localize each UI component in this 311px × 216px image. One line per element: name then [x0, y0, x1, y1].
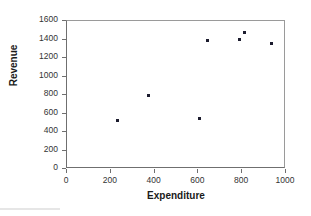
x-tick-mark	[110, 169, 111, 173]
y-axis-title: Revenue	[8, 31, 19, 101]
y-tick-label: 1200	[24, 51, 58, 61]
scatter-chart-figure: Revenue Expenditure 02004006008001000120…	[0, 0, 311, 216]
x-tick-mark	[66, 169, 67, 173]
x-tick-mark	[197, 169, 198, 173]
y-tick-label: 800	[24, 88, 58, 98]
x-tick-label: 800	[224, 175, 258, 185]
x-tick-mark	[285, 169, 286, 173]
y-tick-label: 400	[24, 125, 58, 135]
data-point	[198, 117, 201, 120]
x-tick-label: 0	[49, 175, 83, 185]
y-tick-label: 1000	[24, 70, 58, 80]
x-tick-label: 600	[180, 175, 214, 185]
y-tick-mark	[62, 20, 66, 21]
x-axis-title: Expenditure	[66, 190, 286, 201]
x-tick-label: 1000	[268, 175, 302, 185]
y-tick-mark	[62, 150, 66, 151]
y-tick-label: 600	[24, 107, 58, 117]
x-tick-mark	[241, 169, 242, 173]
plot-area	[66, 20, 285, 168]
data-point	[147, 94, 150, 97]
data-point	[243, 31, 246, 34]
y-tick-label: 0	[24, 162, 58, 172]
y-tick-mark	[62, 131, 66, 132]
x-tick-label: 200	[93, 175, 127, 185]
data-point	[238, 38, 241, 41]
y-tick-label: 1400	[24, 33, 58, 43]
y-tick-mark	[62, 57, 66, 58]
data-point	[206, 39, 209, 42]
y-tick-mark	[62, 76, 66, 77]
data-point	[116, 119, 119, 122]
y-tick-mark	[62, 39, 66, 40]
y-tick-label: 200	[24, 144, 58, 154]
x-tick-mark	[154, 169, 155, 173]
y-tick-label: 1600	[24, 14, 58, 24]
footer-artifact	[0, 208, 60, 210]
y-tick-mark	[62, 113, 66, 114]
x-tick-label: 400	[137, 175, 171, 185]
y-tick-mark	[62, 94, 66, 95]
data-point	[270, 42, 273, 45]
